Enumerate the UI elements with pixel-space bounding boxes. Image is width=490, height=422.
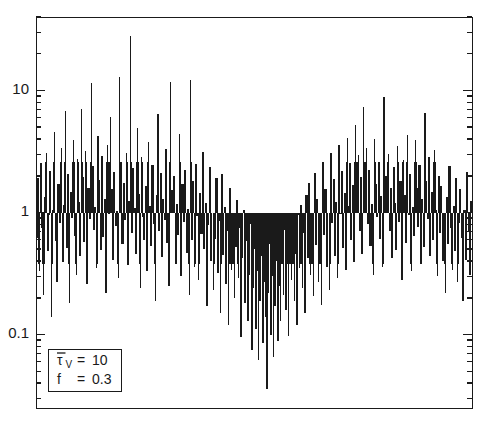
- legend-symbol: f: [57, 371, 61, 387]
- legend-equals: =: [77, 352, 85, 368]
- y-tick-label: 1: [21, 202, 29, 219]
- legend-symbol: τ: [57, 352, 63, 368]
- legend-equals: =: [77, 371, 85, 387]
- legend-symbol-subscript: V: [66, 359, 73, 370]
- legend-value: 0.3: [92, 371, 112, 387]
- y-tick-label: 10: [12, 80, 29, 97]
- y-tick-label: 0.1: [8, 324, 29, 341]
- figure-panel: 1010.1 τV=10f=0.3: [0, 0, 490, 422]
- legend-box: τV=10f=0.3: [49, 350, 122, 392]
- legend-value: 10: [92, 352, 108, 368]
- log-spike-plot: 1010.1 τV=10f=0.3: [0, 0, 490, 422]
